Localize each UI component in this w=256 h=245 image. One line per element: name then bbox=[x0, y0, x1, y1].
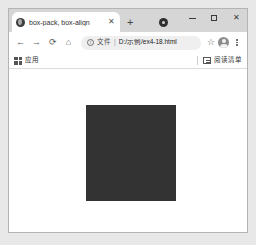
minimize-button[interactable] bbox=[181, 9, 203, 27]
reading-list-icon bbox=[203, 57, 211, 64]
navigation-toolbar: ← → ⟳ ⌂ i 文件 | D:/示例/ex4-18.html ☆ bbox=[9, 32, 247, 53]
reading-list-label: 阅读清单 bbox=[214, 57, 242, 64]
avatar[interactable] bbox=[218, 37, 229, 48]
tab-title: box-pack, box-align bbox=[29, 19, 103, 26]
tab-strip: box-pack, box-align ✕ + ✕ bbox=[9, 9, 247, 32]
globe-icon bbox=[16, 18, 25, 27]
browser-window: box-pack, box-align ✕ + ✕ ← → ⟳ ⌂ i 文件 |… bbox=[8, 8, 248, 233]
apps-label: 应用 bbox=[25, 57, 39, 64]
profile-circle-icon[interactable] bbox=[159, 18, 168, 27]
window-controls: ✕ bbox=[181, 9, 247, 27]
url-scheme-label: 文件 bbox=[97, 39, 111, 46]
demo-box bbox=[86, 105, 176, 201]
new-tab-button[interactable]: + bbox=[127, 17, 133, 28]
url-separator: | bbox=[114, 39, 116, 46]
bookmark-item-apps[interactable]: 应用 bbox=[14, 57, 39, 65]
close-button[interactable]: ✕ bbox=[225, 9, 247, 27]
page-viewport bbox=[9, 69, 247, 232]
info-icon[interactable]: i bbox=[87, 39, 94, 46]
home-icon[interactable]: ⌂ bbox=[62, 36, 75, 49]
apps-grid-icon bbox=[14, 57, 22, 65]
reading-list-button[interactable]: 阅读清单 bbox=[203, 57, 242, 64]
reload-icon[interactable]: ⟳ bbox=[46, 36, 59, 49]
forward-icon[interactable]: → bbox=[30, 36, 43, 49]
address-bar[interactable]: i 文件 | D:/示例/ex4-18.html bbox=[81, 36, 201, 50]
close-icon[interactable]: ✕ bbox=[107, 18, 116, 26]
url-text: D:/示例/ex4-18.html bbox=[119, 39, 195, 46]
bookmarks-bar: 应用 阅读清单 bbox=[9, 53, 247, 69]
browser-tab[interactable]: box-pack, box-align ✕ bbox=[12, 12, 120, 32]
bookmarks-divider bbox=[197, 56, 198, 65]
bookmark-star-icon[interactable]: ☆ bbox=[207, 38, 215, 47]
maximize-button[interactable] bbox=[203, 9, 225, 27]
kebab-menu-icon[interactable] bbox=[232, 39, 242, 46]
back-icon[interactable]: ← bbox=[14, 36, 27, 49]
